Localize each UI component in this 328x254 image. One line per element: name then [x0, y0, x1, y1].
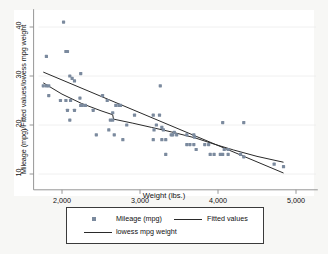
scatter-point [47, 84, 50, 87]
scatter-point [59, 99, 62, 102]
scatter-point [125, 123, 128, 126]
y-tick-label: 40 [13, 16, 22, 36]
scatter-point [223, 148, 226, 151]
scatter-point [64, 99, 67, 102]
scatter-point [213, 153, 216, 156]
scatter-point [221, 121, 224, 124]
scatter-point [162, 128, 165, 131]
scatter-point [185, 143, 188, 146]
scatter-point [45, 55, 48, 58]
scatter-point [47, 94, 50, 97]
legend-label-fitted: Fitted values [207, 214, 248, 223]
scatter-point [185, 133, 188, 136]
scatter-point [175, 133, 178, 136]
scatter-point [152, 128, 155, 131]
scatter-point [119, 104, 122, 107]
scatter-point [160, 138, 163, 141]
scatter-point [66, 109, 69, 112]
chart-container: Mileage (mpg)/Fitted values/lowess mpg w… [0, 0, 328, 254]
scatter-point [188, 143, 191, 146]
scatter-point [68, 119, 71, 122]
scatter-point [227, 153, 230, 156]
scatter-point [62, 21, 65, 24]
y-tick-label: 10 [13, 163, 22, 183]
scatter-point [106, 99, 109, 102]
scatter-point [273, 163, 276, 166]
scatter-point [155, 123, 158, 126]
scatter-point [203, 143, 206, 146]
scatter-point [242, 155, 245, 158]
scatter-point [152, 138, 155, 141]
scatter-point [207, 143, 210, 146]
scatter-point [152, 114, 155, 117]
legend-line-lowess [84, 232, 112, 233]
scatter-point [95, 133, 98, 136]
scatter-point [84, 104, 87, 107]
scatter-point [81, 104, 84, 107]
y-tick-label: 30 [13, 65, 22, 85]
scatter-point [158, 114, 161, 117]
chart-legend: Mileage (mpg) Fitted values lowess mpg w… [66, 207, 264, 244]
scatter-point [107, 128, 110, 131]
legend-line-fitted [174, 219, 202, 220]
x-tick-label: 5,000 [276, 196, 316, 205]
scatter-point [71, 77, 74, 80]
scatter-point [192, 143, 195, 146]
scatter-point [121, 138, 124, 141]
scatter-point [79, 72, 82, 75]
scatter-point [193, 136, 196, 139]
scatter-point [69, 99, 72, 102]
x-tick-label: 2,000 [42, 196, 82, 205]
scatter-point [42, 84, 45, 87]
scatter-point [159, 84, 162, 87]
plot-panel [14, 10, 314, 196]
x-tick-label: 4,000 [198, 196, 238, 205]
scatter-point [133, 114, 136, 117]
scatter-point [239, 153, 242, 156]
legend-label-lowess: lowess mpg weight [116, 227, 177, 236]
scatter-point [66, 50, 69, 53]
scatter-point [227, 148, 230, 151]
scatter-point [282, 165, 285, 168]
x-tick-label: 3,000 [120, 196, 160, 205]
scatter-point [195, 148, 198, 151]
legend-label-mileage: Mileage (mpg) [116, 214, 162, 223]
scatter-point [73, 109, 76, 112]
scatter-point [209, 153, 212, 156]
scatter-point [164, 138, 167, 141]
y-axis-label: Mileage (mpg)/Fitted values/lowess mpg w… [19, 15, 28, 185]
scatter-point [78, 96, 81, 99]
scatter-point [114, 104, 117, 107]
scatter-point [221, 153, 224, 156]
scatter-point [164, 153, 167, 156]
scatter-point [92, 109, 95, 112]
scatter-point [111, 119, 114, 122]
scatter-point [113, 133, 116, 136]
scatter-point [101, 94, 104, 97]
legend-marker-mileage [92, 217, 96, 221]
y-tick-label: 20 [13, 114, 22, 134]
scatter-point [111, 111, 114, 114]
scatter-point [242, 121, 245, 124]
